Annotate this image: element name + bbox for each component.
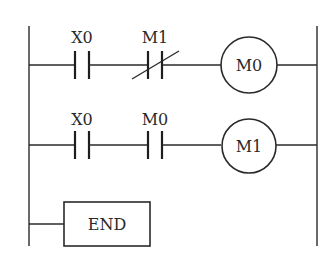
rung-1: X0 M1 M0 <box>29 28 317 93</box>
contact-no-x0: X0 <box>71 28 93 79</box>
coil-m0: M0 <box>221 37 277 93</box>
contact-nc-m1: M1 <box>132 28 179 79</box>
contact-no-m0: M0 <box>142 110 169 159</box>
rung-3: END <box>29 202 150 246</box>
ladder-diagram: X0 M1 M0 X0 M0 M1 <box>0 0 328 261</box>
coil-m1: M1 <box>222 119 276 173</box>
end-label: END <box>88 215 127 234</box>
coil-label: M0 <box>236 56 263 75</box>
rung-2: X0 M0 M1 <box>29 110 317 173</box>
contact-label: X0 <box>71 28 93 47</box>
coil-label: M1 <box>236 137 263 156</box>
end-instruction-box: END <box>64 202 150 246</box>
contact-no-x0: X0 <box>71 110 93 159</box>
contact-label: M0 <box>142 110 169 129</box>
contact-label: X0 <box>71 110 93 129</box>
contact-label: M1 <box>142 28 169 47</box>
